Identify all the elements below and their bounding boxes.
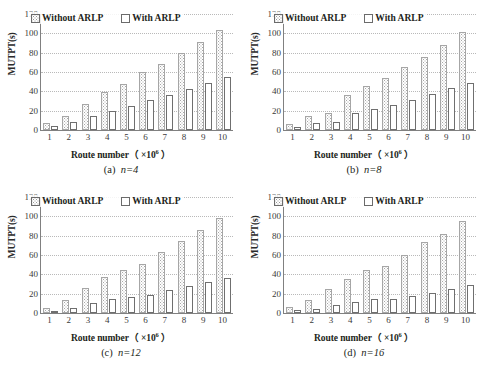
bar-group [214,197,233,313]
bar-with-arlp [313,309,320,313]
bar-without-arlp [286,124,293,130]
bar-group [41,197,60,313]
x-tick-label: 4 [341,132,360,142]
x-tick-label: 7 [155,315,174,325]
bar-with-arlp [90,303,97,313]
bar-group [137,197,156,313]
bar-without-arlp [305,300,312,313]
bar-with-arlp [294,127,301,130]
y-tick-label: 60 [257,67,281,77]
x-tick-label: 2 [302,132,321,142]
x-axis-label: Route number（ ×106 ） [0,147,242,161]
plot-area-c: MUTPT(s)120100806040200Without ARLPWith … [0,187,242,332]
bar-group [175,197,194,313]
legend-item: With ARLP [364,196,423,206]
bar-with-arlp [448,88,455,130]
bar-with-arlp [371,299,378,313]
y-tick-label: 40 [14,86,38,96]
chart-panel-a: MUTPT(s)120100806040200Without ARLPWith … [0,0,242,183]
y-axis-ticks: 120100806040200 [14,197,38,313]
legend-swatch-without-arlp [274,197,283,206]
bar-group [399,14,418,130]
x-tick-label: 8 [417,315,436,325]
y-axis-ticks: 120100806040200 [257,197,281,313]
bar-group [214,14,233,130]
x-tick-label: 9 [437,315,456,325]
bar-with-arlp [352,302,359,313]
y-tick-label: 40 [257,269,281,279]
bar-without-arlp [62,116,69,131]
bar-without-arlp [82,104,89,130]
y-tick-label: 40 [14,269,38,279]
bar-without-arlp [216,218,223,313]
y-tick-label: 100 [257,28,281,38]
x-tick-label: 6 [136,132,155,142]
x-axis-label: Route number（ ×106 ） [243,330,485,344]
legend-swatch-with-arlp [121,14,130,23]
figure-container: MUTPT(s)120100806040200Without ARLPWith … [0,0,485,366]
y-tick-label: 60 [14,67,38,77]
bar-with-arlp [51,126,58,130]
legend-swatch-with-arlp [121,197,130,206]
chart-legend: Without ARLPWith ARLP [271,195,426,207]
caption-index: (d) [344,347,356,358]
panel-caption-b: (b) n=8 [243,164,485,175]
bar-without-arlp [382,78,389,130]
bar-with-arlp [166,95,173,130]
x-tick-label: 5 [360,132,379,142]
legend-label-with-arlp: With ARLP [375,13,423,23]
y-tick-label: 20 [14,289,38,299]
y-tick-label: 100 [257,211,281,221]
x-axis-ticks: 12345678910 [283,315,475,325]
bar-without-arlp [139,264,146,313]
bar-with-arlp [429,293,436,313]
x-tick-label: 6 [379,315,398,325]
bar-group [99,197,118,313]
bar-with-arlp [448,289,455,313]
bar-group [175,14,194,130]
y-tick-label: 20 [257,289,281,299]
y-tick-label: 80 [14,48,38,58]
bar-without-arlp [363,270,370,313]
bar-without-arlp [197,230,204,313]
legend-label-without-arlp: Without ARLP [285,13,346,23]
y-axis-ticks: 120100806040200 [257,14,281,130]
bar-with-arlp [409,296,416,313]
plot-area-b: MUTPT(s)120100806040200Without ARLPWith … [243,4,485,149]
bar-without-arlp [178,241,185,314]
bar-without-arlp [43,308,50,313]
legend-swatch-with-arlp [364,14,373,23]
bar-without-arlp [158,252,165,313]
bar-with-arlp [224,77,231,130]
x-tick-label: 7 [155,132,174,142]
bar-group [79,197,98,313]
bar-without-arlp [62,300,69,313]
legend-swatch-without-arlp [274,14,283,23]
bar-group [361,14,380,130]
bar-without-arlp [197,42,204,130]
bar-group [195,197,214,313]
bar-without-arlp [120,84,127,130]
bar-with-arlp [205,282,212,313]
bar-without-arlp [459,221,466,313]
caption-index: (c) [101,347,113,358]
y-tick-label: 20 [257,106,281,116]
bar-without-arlp [286,307,293,313]
x-tick-label: 2 [302,315,321,325]
bar-with-arlp [166,290,173,313]
bar-without-arlp [325,289,332,313]
caption-index: (b) [346,164,358,175]
bar-with-arlp [147,100,154,130]
bar-group [60,14,79,130]
bar-with-arlp [109,111,116,130]
bar-with-arlp [51,311,58,313]
x-tick-label: 6 [136,315,155,325]
x-tick-label: 5 [360,315,379,325]
legend-label-without-arlp: Without ARLP [285,196,346,206]
y-tick-label: 0 [14,308,38,318]
x-tick-label: 1 [40,132,59,142]
x-tick-label: 7 [398,132,417,142]
bar-without-arlp [101,277,108,313]
bar-with-arlp [467,83,474,130]
bar-without-arlp [363,86,370,130]
